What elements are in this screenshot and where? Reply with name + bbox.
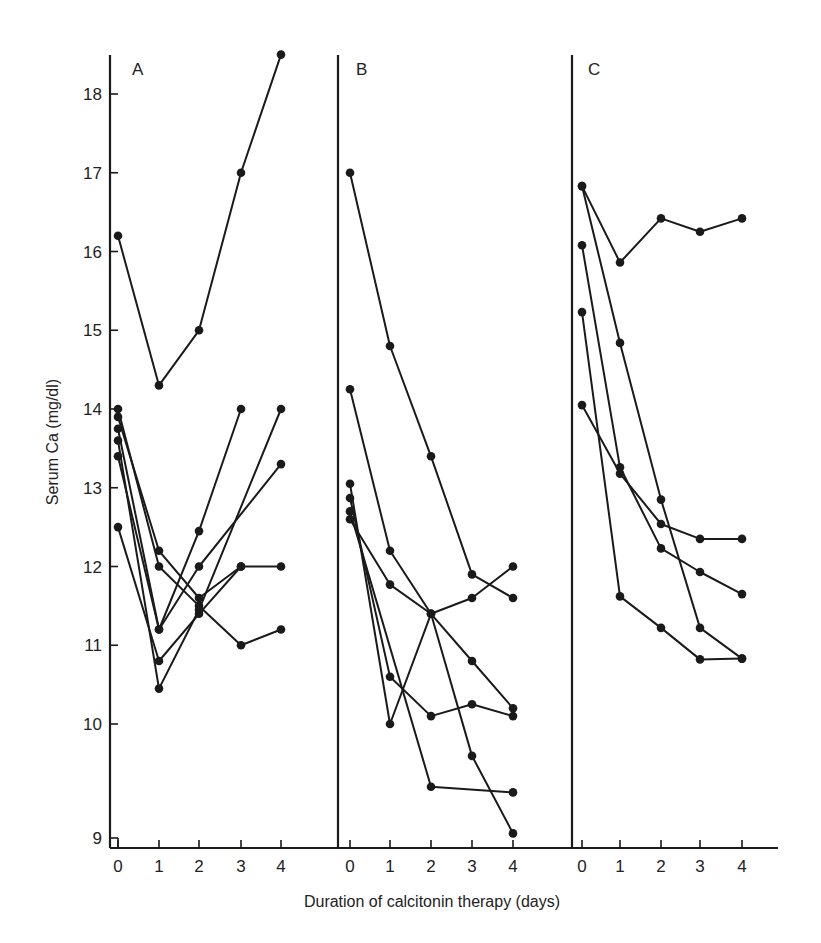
- data-point: [155, 625, 164, 634]
- data-point: [427, 610, 436, 619]
- y-tick-label: 15: [83, 321, 102, 340]
- data-point: [114, 232, 123, 241]
- x-axis-title: Duration of calcitonin therapy (days): [304, 893, 560, 910]
- data-point: [386, 720, 395, 729]
- data-point: [346, 385, 355, 394]
- data-point: [509, 704, 518, 713]
- x-tick-label: 0: [113, 857, 122, 876]
- data-point: [277, 405, 286, 414]
- series-line: [582, 245, 742, 594]
- data-point: [114, 436, 123, 445]
- data-point: [578, 308, 587, 317]
- series-line: [350, 173, 513, 598]
- data-point: [616, 339, 625, 348]
- data-point: [578, 401, 587, 410]
- data-point: [468, 657, 477, 666]
- y-tick-label: 9: [93, 829, 102, 848]
- x-tick-label: 0: [345, 857, 354, 876]
- data-point: [155, 562, 164, 571]
- data-point: [427, 452, 436, 461]
- x-tick-label: 1: [154, 857, 163, 876]
- series-line: [350, 498, 513, 716]
- x-tick-label: 4: [508, 857, 517, 876]
- x-tick-label: 3: [467, 857, 476, 876]
- data-point: [386, 673, 395, 682]
- data-point: [616, 469, 625, 478]
- data-point: [195, 594, 204, 603]
- panel-label-a: A: [132, 60, 144, 79]
- data-point: [114, 405, 123, 414]
- panel-label-c: C: [588, 60, 600, 79]
- x-tick-label: 1: [385, 857, 394, 876]
- data-point: [657, 544, 666, 553]
- panel-label-b: B: [356, 60, 367, 79]
- data-point: [237, 641, 246, 650]
- data-point: [657, 520, 666, 529]
- y-tick-label: 13: [83, 479, 102, 498]
- data-point: [696, 624, 705, 633]
- series-line: [118, 55, 281, 386]
- series-b1: [346, 169, 518, 603]
- y-tick-label: 10: [83, 715, 102, 734]
- data-point: [114, 523, 123, 532]
- data-point: [346, 480, 355, 489]
- series-c2: [578, 182, 747, 663]
- series-line: [582, 312, 742, 659]
- data-point: [657, 624, 666, 633]
- series-line: [118, 417, 241, 598]
- data-point: [738, 535, 747, 544]
- series-line: [582, 186, 742, 658]
- data-point: [195, 602, 204, 611]
- series-c1: [578, 182, 747, 267]
- data-point: [509, 712, 518, 721]
- x-tick-label: 3: [695, 857, 704, 876]
- data-point: [277, 50, 286, 59]
- data-point: [616, 592, 625, 601]
- data-point: [155, 684, 164, 693]
- data-point: [346, 169, 355, 178]
- data-point: [155, 381, 164, 390]
- y-tick-label: 12: [83, 558, 102, 577]
- y-axis-title: Serum Ca (mg/dl): [44, 379, 61, 505]
- data-point: [277, 562, 286, 571]
- series-a1: [114, 50, 286, 389]
- data-point: [195, 610, 204, 619]
- y-tick-label: 14: [83, 400, 102, 419]
- data-point: [468, 752, 477, 761]
- series-b2: [346, 385, 518, 713]
- data-point: [237, 562, 246, 571]
- data-point: [386, 580, 395, 589]
- x-tick-label: 2: [194, 857, 203, 876]
- data-point: [616, 258, 625, 267]
- data-point: [386, 547, 395, 556]
- x-tick-label: 2: [426, 857, 435, 876]
- data-point: [468, 570, 477, 579]
- series-line: [582, 405, 742, 539]
- data-point: [468, 594, 477, 603]
- data-point: [738, 214, 747, 223]
- data-point: [509, 829, 518, 838]
- series-b3: [346, 480, 518, 729]
- data-point: [346, 507, 355, 516]
- data-point: [509, 788, 518, 797]
- y-tick-label: 16: [83, 243, 102, 262]
- data-point: [237, 169, 246, 178]
- data-point: [195, 527, 204, 536]
- data-point: [657, 214, 666, 223]
- data-point: [696, 655, 705, 664]
- series-c4: [578, 308, 747, 664]
- y-tick-label: 18: [83, 85, 102, 104]
- data-point: [427, 712, 436, 721]
- x-tick-label: 4: [737, 857, 746, 876]
- data-point: [509, 562, 518, 571]
- x-tick-label: 3: [236, 857, 245, 876]
- data-point: [468, 700, 477, 709]
- series-line: [350, 511, 513, 792]
- data-point: [738, 590, 747, 599]
- y-tick-label: 17: [83, 164, 102, 183]
- data-point: [657, 495, 666, 504]
- data-point: [696, 535, 705, 544]
- data-point: [696, 228, 705, 237]
- data-point: [155, 657, 164, 666]
- plot-area: [114, 50, 747, 837]
